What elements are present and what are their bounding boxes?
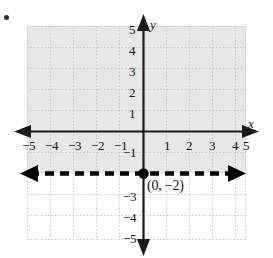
x-tick-label--2: −2 [91, 139, 104, 152]
graph-figure: −5 −4 −3 −2 −1 1 2 3 4 5 5 4 3 2 1 −1 −3… [0, 0, 273, 258]
point-label: (0, −2) [147, 179, 184, 193]
x-tick-label-1: 1 [164, 139, 170, 152]
y-axis-label: y [150, 18, 156, 31]
x-tick-label--4: −4 [45, 139, 58, 152]
x-tick-label-3: 3 [209, 139, 215, 152]
y-tick-label--5: −5 [123, 232, 136, 245]
y-tick-label-4: 4 [129, 44, 135, 57]
coordinate-plane-svg [0, 0, 273, 258]
y-tick-label--1: −1 [123, 146, 136, 159]
y-tick-label-1: 1 [129, 107, 135, 120]
x-axis-label: x [248, 117, 254, 130]
x-tick-label--5: −5 [22, 139, 35, 152]
y-tick-label-5: 5 [129, 23, 135, 36]
y-tick-label--4: −4 [123, 211, 136, 224]
y-axis-top-arrow-icon [137, 14, 150, 31]
y-tick-label--3: −3 [123, 190, 136, 203]
x-tick-label-5: 5 [243, 139, 249, 152]
x-axis-left-arrow-icon [14, 125, 31, 138]
x-tick-label--3: −3 [68, 139, 81, 152]
y-axis-bottom-arrow-icon [137, 239, 150, 256]
x-tick-label-2: 2 [186, 139, 192, 152]
y-tick-label-2: 2 [129, 86, 135, 99]
y-tick-label-3: 3 [129, 65, 135, 78]
x-tick-label-4: 4 [232, 139, 238, 152]
